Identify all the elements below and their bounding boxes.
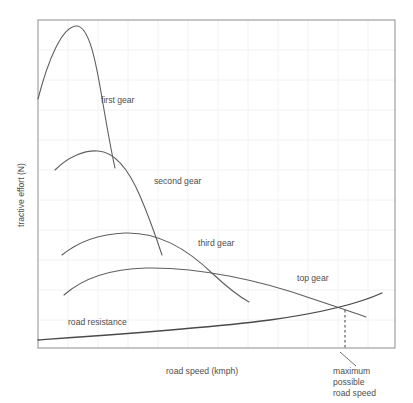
- label-third-gear: third gear: [198, 238, 234, 248]
- label-top-gear: top gear: [297, 273, 329, 283]
- plot-frame: [38, 20, 395, 348]
- tractive-effort-chart: first gear second gear third gear top ge…: [0, 0, 413, 403]
- curve-second-gear: [55, 151, 162, 255]
- annotation-max-speed-line2: possible: [333, 377, 365, 387]
- x-axis-title: road speed (kmph): [166, 366, 238, 376]
- grid-lines: [38, 20, 395, 348]
- annotation-max-speed-line1: maximum: [333, 366, 370, 376]
- y-axis-title: tractive effort (N): [16, 163, 26, 227]
- label-first-gear: first gear: [101, 95, 135, 105]
- annotation-max-speed-line3: road speed: [333, 388, 376, 398]
- label-second-gear: second gear: [154, 176, 201, 186]
- max-speed-leader-line: [340, 352, 356, 366]
- figure-canvas: first gear second gear third gear top ge…: [0, 0, 413, 403]
- label-road-resistance: road resistance: [68, 317, 127, 327]
